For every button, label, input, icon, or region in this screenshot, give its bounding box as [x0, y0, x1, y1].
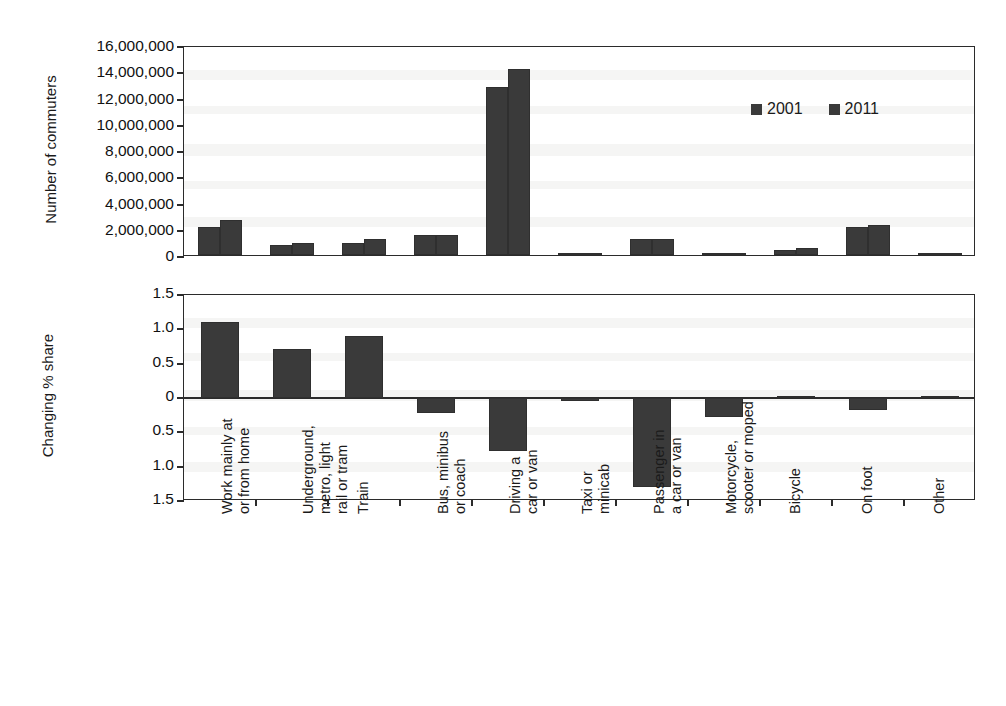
y-tick-label-bottom: 1.0 [152, 319, 174, 335]
x-tick-mark [543, 500, 545, 506]
legend-label: 2011 [845, 100, 879, 118]
y-tick-label-bottom: 1.5 [152, 491, 174, 507]
x-tick-mark [327, 500, 329, 506]
bar-commuters [292, 243, 314, 255]
bar-commuters [774, 250, 796, 255]
y-tick-mark-top [177, 151, 184, 153]
bar-commuters [364, 239, 386, 255]
y-axis-title-top: Number of commuters [42, 45, 59, 255]
bar-share-change [417, 398, 454, 413]
y-tick-mark-bottom [177, 431, 184, 433]
x-category-label: On foot [859, 466, 876, 514]
bar-commuters [220, 220, 242, 255]
x-category-label: Passenger in a car or van [651, 429, 685, 514]
bar-share-change [921, 396, 958, 399]
y-tick-mark-bottom [177, 294, 184, 296]
y-tick-label-top: 0 [165, 248, 174, 264]
y-tick-label-top: 8,000,000 [105, 143, 174, 159]
y-tick-mark-top [177, 72, 184, 74]
bar-commuters [342, 243, 364, 255]
bar-commuters [486, 87, 508, 255]
y-tick-label-top: 16,000,000 [96, 38, 174, 54]
bar-commuters [918, 253, 940, 255]
bar-commuters [558, 253, 580, 255]
x-category-label: Underground, metro, light rail or tram [300, 425, 351, 514]
y-tick-label-top: 12,000,000 [96, 91, 174, 107]
x-tick-mark [831, 500, 833, 506]
y-tick-mark-top [177, 177, 184, 179]
x-tick-mark [759, 500, 761, 506]
x-tick-mark [255, 500, 257, 506]
x-category-label: Other [931, 478, 948, 514]
bar-commuters [940, 253, 962, 255]
y-tick-label-bottom: 1.5 [152, 285, 174, 301]
y-tick-label-top: 2,000,000 [105, 222, 174, 238]
x-category-label: Motorcycle, scooter or moped [723, 401, 757, 514]
y-tick-label-top: 6,000,000 [105, 169, 174, 185]
x-tick-mark [399, 500, 401, 506]
legend: 20012011 [751, 100, 879, 118]
bar-share-change [201, 322, 238, 398]
x-tick-mark [687, 500, 689, 506]
y-tick-label-bottom: 0 [165, 388, 174, 404]
bar-commuters [702, 253, 724, 255]
y-tick-label-bottom: 0.5 [152, 354, 174, 370]
y-tick-label-bottom: 1.0 [152, 457, 174, 473]
bar-share-change [273, 349, 310, 398]
x-tick-mark [471, 500, 473, 506]
x-category-label: Driving a car or van [507, 450, 541, 514]
y-tick-label-bottom: 0.5 [152, 422, 174, 438]
bar-commuters [846, 227, 868, 255]
y-tick-mark-top [177, 46, 184, 48]
y-tick-label-top: 14,000,000 [96, 64, 174, 80]
bar-commuters [198, 227, 220, 255]
legend-swatch-icon [751, 104, 762, 115]
figure-root: Number of commuters 16,000,00014,000,000… [0, 0, 1006, 706]
bar-share-change [561, 398, 598, 401]
x-category-label: Work mainly at or from home [219, 418, 253, 514]
y-tick-mark-bottom [177, 363, 184, 365]
y-tick-mark-top [177, 230, 184, 232]
bar-commuters [630, 239, 652, 255]
plot-area-commuters: 20012011 [183, 46, 975, 256]
bar-commuters [724, 253, 746, 255]
bar-commuters [868, 225, 890, 255]
bar-share-change [345, 336, 382, 398]
legend-label: 2001 [767, 100, 803, 118]
bar-commuters [796, 248, 818, 255]
y-tick-mark-top [177, 125, 184, 127]
x-category-label: Bus, minibus or coach [435, 431, 469, 514]
y-tick-mark-top [177, 256, 184, 258]
y-tick-mark-bottom [177, 397, 184, 399]
legend-swatch-icon [829, 104, 840, 115]
x-category-label: Train [355, 482, 372, 515]
y-tick-label-top: 10,000,000 [96, 117, 174, 133]
y-tick-mark-bottom [177, 466, 184, 468]
x-tick-mark [615, 500, 617, 506]
bar-commuters [436, 235, 458, 255]
y-tick-mark-bottom [177, 500, 184, 502]
legend-item: 2011 [829, 100, 879, 118]
x-category-label: Bicycle [787, 468, 804, 514]
bar-share-change [777, 396, 814, 399]
y-tick-mark-top [177, 99, 184, 101]
bar-commuters [580, 253, 602, 255]
y-tick-mark-top [177, 204, 184, 206]
bar-commuters [652, 239, 674, 255]
bar-share-change [489, 398, 526, 451]
bar-commuters [414, 235, 436, 255]
legend-item: 2001 [751, 100, 803, 118]
y-tick-label-top: 4,000,000 [105, 196, 174, 212]
bar-commuters [508, 69, 530, 255]
bar-commuters [270, 245, 292, 255]
x-tick-mark [903, 500, 905, 506]
y-axis-title-bottom: Changing % share [39, 296, 56, 496]
y-tick-mark-bottom [177, 328, 184, 330]
x-category-label: Taxi or minicab [579, 464, 613, 514]
bar-share-change [849, 398, 886, 410]
